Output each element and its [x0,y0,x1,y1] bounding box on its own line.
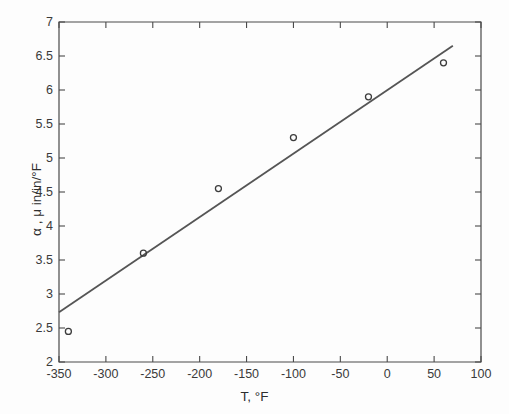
y-tick-label: 3 [0,288,53,301]
y-tick-label: 6.5 [0,50,53,63]
data-point-marker [440,60,446,66]
y-tick-label: 5.5 [0,118,53,131]
data-point-marker [290,135,296,141]
data-point-marker [65,328,71,334]
x-tick-label: 100 [451,368,509,381]
data-point-marker [215,186,221,192]
regression-line [59,46,453,313]
y-tick-label: 3.5 [0,254,53,267]
y-tick-label: 5 [0,152,53,165]
axes-box [59,22,481,362]
y-tick-label: 2 [0,356,53,369]
data-points-group [65,60,446,335]
y-tick-label: 4 [0,220,53,233]
tick-marks [59,22,481,362]
plot-area [0,0,509,414]
regression-line-group [59,46,453,313]
data-point-marker [365,94,371,100]
x-axis-label: T, °F [0,389,509,404]
y-tick-label: 4.5 [0,186,53,199]
y-tick-label: 2.5 [0,322,53,335]
chart-figure: α , μ in/in/°F T, °F -350-300-250-200-15… [0,0,509,414]
y-tick-label: 7 [0,16,53,29]
axes-frame [59,22,481,362]
y-tick-label: 6 [0,84,53,97]
